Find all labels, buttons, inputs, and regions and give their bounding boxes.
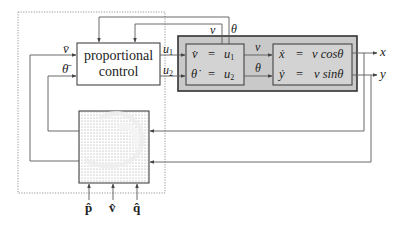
- dynamics-eq1-equals: =: [208, 48, 215, 61]
- intermediate-v-label: v: [255, 41, 260, 53]
- output-x-label: x: [380, 45, 386, 58]
- feedback-v-label: v: [210, 24, 215, 36]
- kinematics-eq2-rhs: v sinθ: [314, 68, 343, 81]
- v-ref-label: v̄: [63, 42, 69, 55]
- theta-ref-label: θ̄: [62, 62, 68, 75]
- dynamics-eq2-rhs: u2: [224, 68, 234, 82]
- u2-label: u2: [163, 64, 173, 78]
- controller-label-line1: proportional: [77, 48, 160, 64]
- param-q-label: q̂: [133, 201, 140, 214]
- param-p-label: p̂: [85, 201, 92, 214]
- kinematics-eq2-equals: =: [296, 68, 303, 81]
- dynamics-eq2-equals: =: [208, 68, 215, 81]
- proportional-control-label: proportional control: [77, 48, 160, 80]
- kinematics-eq1-rhs: v cosθ: [312, 48, 343, 61]
- intermediate-theta-label: θ: [255, 62, 261, 74]
- block-diagram: [0, 0, 402, 225]
- output-y-label: y: [380, 67, 386, 80]
- feedback-theta-label: θ: [231, 23, 237, 35]
- controller-label-line2: control: [77, 64, 160, 80]
- kinematics-eq1-lhs: ẋ: [279, 48, 285, 61]
- dynamics-eq1-lhs: v̇: [192, 48, 198, 61]
- param-v-label: v̂: [109, 201, 116, 214]
- u1-label: u1: [163, 43, 173, 57]
- kinematics-eq1-equals: =: [296, 48, 303, 61]
- kinematics-eq2-lhs: ẏ: [279, 68, 285, 81]
- dynamics-eq2-lhs: θ̇: [191, 68, 197, 81]
- dynamics-eq1-rhs: u1: [224, 48, 234, 62]
